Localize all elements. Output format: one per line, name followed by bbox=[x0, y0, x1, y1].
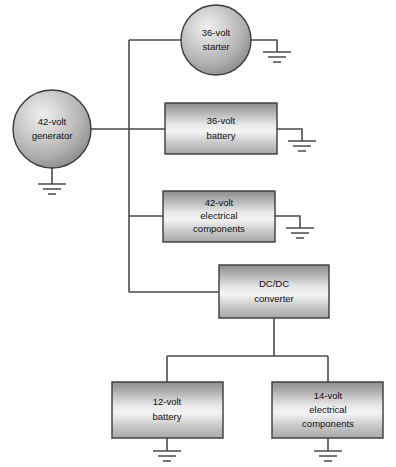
wire-36v-battery-ground-stem bbox=[277, 129, 302, 141]
12v-battery-label-line-1: 12-volt bbox=[153, 396, 182, 407]
14v-components-label-line-3: components bbox=[302, 418, 354, 429]
generator-label-line-2: generator bbox=[32, 130, 73, 141]
wire-starter-ground-stem bbox=[251, 40, 277, 52]
dcdc-converter-label-line-1: DC/DC bbox=[259, 278, 289, 289]
wire-42v-components-ground-stem bbox=[275, 216, 300, 228]
node-42v-components[interactable]: 42-volt electrical components bbox=[163, 191, 275, 242]
ground-symbol-42v-components bbox=[286, 228, 314, 238]
generator-label-line-1: 42-volt bbox=[38, 116, 67, 127]
ground-symbol-starter bbox=[263, 52, 291, 62]
42v-components-label-line-3: components bbox=[193, 223, 245, 234]
ground-symbol-generator bbox=[38, 184, 66, 194]
schematic-diagram: 42-volt generator 36-volt starter 36-vol… bbox=[0, 0, 396, 467]
12v-battery-label-line-2: battery bbox=[152, 411, 181, 422]
schematic-canvas: 42-volt generator 36-volt starter 36-vol… bbox=[0, 0, 396, 467]
36v-battery-label-line-2: battery bbox=[206, 130, 235, 141]
node-generator[interactable]: 42-volt generator bbox=[13, 90, 91, 168]
starter-label-line-1: 36-volt bbox=[202, 27, 231, 38]
36v-battery-label-line-1: 36-volt bbox=[207, 115, 236, 126]
42v-components-label-line-1: 42-volt bbox=[205, 197, 234, 208]
dcdc-converter-label-line-2: converter bbox=[254, 293, 294, 304]
figure-caption bbox=[0, 457, 396, 467]
node-starter[interactable]: 36-volt starter bbox=[181, 5, 251, 75]
42v-components-label-line-2: electrical bbox=[200, 210, 238, 221]
node-12v-battery[interactable]: 12-volt battery bbox=[112, 382, 223, 438]
node-14v-components[interactable]: 14-volt electrical components bbox=[272, 382, 383, 438]
node-36v-battery[interactable]: 36-volt battery bbox=[165, 103, 277, 154]
node-dcdc-converter[interactable]: DC/DC converter bbox=[219, 265, 329, 318]
14v-components-label-line-1: 14-volt bbox=[314, 390, 343, 401]
14v-components-label-line-2: electrical bbox=[309, 404, 347, 415]
starter-label-line-2: starter bbox=[203, 41, 230, 52]
ground-symbol-36v-battery bbox=[288, 141, 316, 151]
dcdc-converter-box[interactable] bbox=[219, 265, 329, 318]
36v-battery-box[interactable] bbox=[165, 103, 277, 154]
